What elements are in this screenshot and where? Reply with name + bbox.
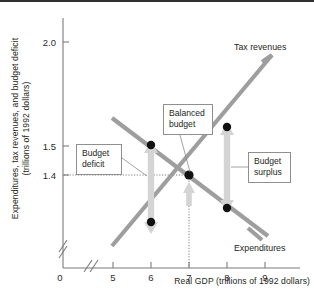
y-tick-label-2-0: 2.0 (43, 37, 56, 48)
axis-break-marks (59, 240, 98, 272)
series-label-pointers (248, 55, 272, 240)
y-axis-title-line2: (trillions of 1992 dollars) (20, 31, 31, 227)
callout-budget-deficit-line2: deficit (82, 159, 116, 170)
y-tick-label-1-4: 1.4 (43, 170, 56, 181)
callout-budget-surplus-line2: surplus (254, 167, 285, 178)
x-tick-label-5: 5 (110, 272, 115, 283)
y-tick-label-1-5: 1.5 (43, 141, 56, 152)
callout-budget-deficit: Budget deficit (76, 144, 122, 175)
x-axis-title: Real GDP (trillions of 1992 dollars) (174, 276, 310, 287)
callout-budget-deficit-line1: Budget (82, 148, 116, 159)
x-axis-break-icon (84, 260, 98, 272)
callout-budget-surplus-line1: Budget (254, 156, 285, 167)
y-ticks-group (63, 42, 69, 175)
balanced-budget-arrow (183, 182, 195, 206)
data-point-tax-revenues-6 (147, 218, 155, 226)
y-axis-title-line1: Expenditures, tax revenues, and budget d… (10, 31, 21, 227)
leader-deficit (122, 158, 147, 176)
chart-figure: 2.0 1.5 1.4 0 5 6 7 8 9 Expenditures, ta… (0, 0, 314, 308)
series-label-tax-revenues: Tax revenues (234, 42, 286, 52)
data-point-balanced-budget (184, 170, 193, 179)
axes-group (63, 18, 300, 268)
series-label-expenditures: Expenditures (234, 243, 285, 253)
data-point-expenditures-6 (147, 141, 155, 149)
series-group (112, 55, 272, 246)
callout-budget-surplus: Budget surplus (248, 152, 291, 183)
data-points-group (147, 123, 231, 226)
x-tick-label-6: 6 (148, 272, 153, 283)
y-axis-title: Expenditures, tax revenues, and budget d… (10, 31, 31, 227)
callout-balanced-budget-line1: Balanced (169, 108, 207, 119)
callout-balanced-budget: Balanced budget (163, 104, 213, 135)
series-line-tax-revenues (112, 55, 272, 246)
guide-lines-group (64, 175, 189, 268)
data-point-tax-revenues-8 (223, 123, 231, 131)
x-tick-label-0: 0 (57, 272, 62, 283)
data-point-expenditures-8 (223, 204, 231, 212)
callout-balanced-budget-line2: budget (169, 119, 207, 130)
pointer-tax-revenues (262, 55, 272, 62)
